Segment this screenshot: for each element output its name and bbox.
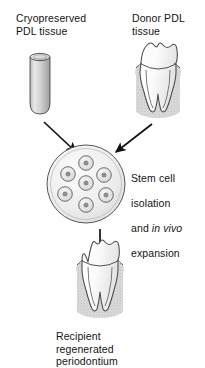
stem-line-1: Stem cell	[131, 172, 175, 184]
culture-dish-icon	[47, 145, 125, 223]
stem-line-4: expansion	[131, 247, 180, 259]
stem-line-3-prefix: and	[131, 222, 152, 234]
arrow-tooth-to-dish	[116, 124, 152, 152]
stem-line-2: isolation	[131, 197, 170, 209]
stem-line-3-italic: in vivo	[152, 222, 182, 234]
label-stem-cell-isolation: Stem cell isolation and in vivo expansio…	[131, 159, 205, 259]
label-cryopreserved-pdl-tissue: Cryopreserved PDL tissue	[16, 12, 112, 37]
donor-tooth-icon	[135, 43, 181, 118]
label-recipient-regenerated-periodontium: Recipient regenerated periodontium	[56, 330, 196, 368]
label-donor-pdl-tissue: Donor PDL tissue	[132, 12, 202, 37]
recipient-tooth-icon	[76, 240, 124, 318]
cryovial-icon	[30, 53, 50, 114]
